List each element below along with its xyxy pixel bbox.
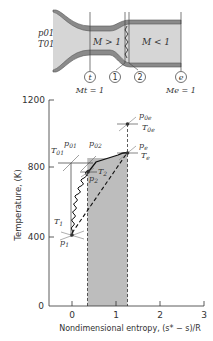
label-T01: T01 xyxy=(51,146,64,156)
ts-chart: 1200 800 400 0 0 1 2 3 Temperature, (K) … xyxy=(13,95,207,333)
shock-wavy-line xyxy=(71,170,89,234)
station-2-label: 2 xyxy=(137,73,142,82)
x-tick-3: 3 xyxy=(201,310,207,320)
state-e-point xyxy=(126,151,130,155)
y-tick-800: 800 xyxy=(28,162,45,172)
throat-mach-label: Mt = 1 xyxy=(75,86,104,95)
label-T1: T1 xyxy=(54,217,63,227)
inlet-temperature-label: T01 xyxy=(38,39,55,49)
supersonic-region-label: M > 1 xyxy=(92,37,121,47)
label-pe: pe xyxy=(139,141,148,151)
station-e-label: e xyxy=(179,73,184,82)
label-p0e: p0e xyxy=(139,111,152,121)
label-Te: Te xyxy=(141,151,150,161)
label-p1: p1 xyxy=(60,238,69,248)
x-tick-2: 2 xyxy=(157,310,163,320)
y-tick-400: 400 xyxy=(28,232,45,242)
y-tick-0: 0 xyxy=(38,301,44,311)
y-tick-1200: 1200 xyxy=(22,95,45,105)
label-p02: p02 xyxy=(89,139,102,149)
y-axis-title: Temperature, (K) xyxy=(13,169,23,241)
state-0e-point xyxy=(126,122,130,126)
inlet-pressure-label: p01 xyxy=(38,28,54,38)
subsonic-region-label: M < 1 xyxy=(141,37,170,47)
x-tick-1: 1 xyxy=(113,310,119,320)
state-1-point xyxy=(70,233,74,237)
exit-mach-label: Me = 1 xyxy=(165,86,196,95)
nozzle-schematic: t 1 2 e Mt = 1 Me = 1 M > 1 M < 1 p01 T0… xyxy=(38,10,196,95)
station-1-label: 1 xyxy=(112,73,117,82)
x-axis-title: Nondimensional entropy, (s* − s)/R xyxy=(59,324,201,333)
diagram-figure: t 1 2 e Mt = 1 Me = 1 M > 1 M < 1 p01 T0… xyxy=(0,0,213,341)
label-T0e: T0e xyxy=(142,123,155,133)
label-p01: p01 xyxy=(64,139,77,149)
x-tick-0: 0 xyxy=(69,310,75,320)
